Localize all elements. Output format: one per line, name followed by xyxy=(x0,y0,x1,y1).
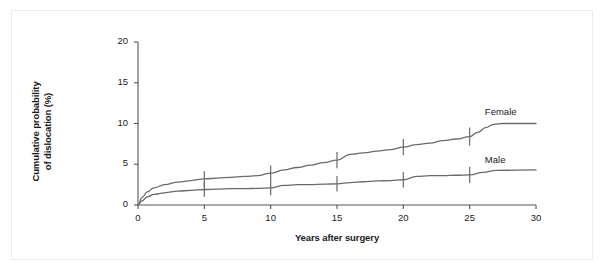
x-axis-tick-label: 15 xyxy=(325,212,349,223)
series-label-female: Female xyxy=(485,106,517,117)
x-axis-tick-label: 30 xyxy=(524,212,548,223)
chart-plot-root: Cumulative probability of dislocation (%… xyxy=(0,0,615,270)
series-label-male: Male xyxy=(485,154,506,165)
y-axis-tick-label: 20 xyxy=(106,35,128,46)
x-axis-tick-label: 5 xyxy=(192,212,216,223)
x-axis-tick-label: 0 xyxy=(126,212,150,223)
x-axis-tick-label: 10 xyxy=(259,212,283,223)
cumulative-incidence-chart xyxy=(0,0,615,270)
y-axis-tick-label: 15 xyxy=(106,76,128,87)
y-axis-tick-label: 0 xyxy=(106,198,128,209)
y-axis-tick-label: 5 xyxy=(106,157,128,168)
y-axis-tick-label: 10 xyxy=(106,117,128,128)
x-axis-tick-label: 20 xyxy=(391,212,415,223)
x-axis-tick-label: 25 xyxy=(458,212,482,223)
